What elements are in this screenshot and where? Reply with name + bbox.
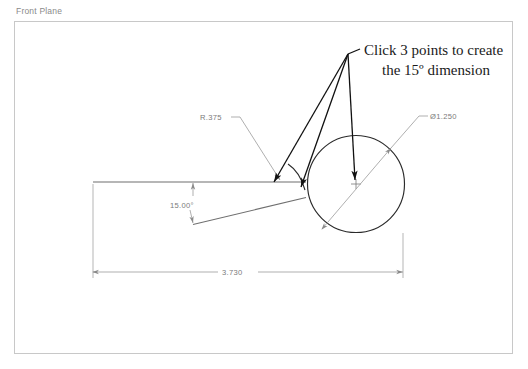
length-dimension[interactable]: 3.730 <box>93 184 403 278</box>
instruction-leader <box>274 49 360 187</box>
angled-edge-line <box>193 198 306 225</box>
instruction-line-1: Click 3 points to create <box>364 42 503 58</box>
radius-dimension[interactable]: R.375 <box>200 113 280 180</box>
fillet-arc <box>288 164 305 190</box>
diameter-dimension[interactable]: Ø1.250 <box>322 112 457 229</box>
diameter-dim-line <box>322 148 391 229</box>
angle-label: 15.00° <box>170 201 194 210</box>
leader-arrow-to-point-2 <box>301 54 348 187</box>
radius-label: R.375 <box>200 113 222 122</box>
leader-shelf <box>348 49 360 54</box>
drawing-canvas[interactable]: Ø1.250 R.375 15.00° 3.730 <box>0 0 528 369</box>
instruction-line-2: the 15º dimension <box>382 62 490 78</box>
radius-dim-line <box>240 117 280 180</box>
length-label: 3.730 <box>222 268 243 277</box>
leader-arrow-to-point-3 <box>348 54 355 180</box>
drawing-screen: Front Plane <box>0 0 528 369</box>
angle-dimension[interactable]: 15.00° <box>170 183 194 223</box>
instruction-text: Click 3 points to create the 15º dimensi… <box>364 42 503 78</box>
circle-center-mark <box>351 179 361 189</box>
diameter-leader-line <box>391 116 419 148</box>
part-geometry <box>93 136 405 233</box>
diameter-label: Ø1.250 <box>430 112 457 121</box>
leader-arrow-to-point-1 <box>274 54 348 182</box>
angle-arrow-lower <box>190 210 193 223</box>
